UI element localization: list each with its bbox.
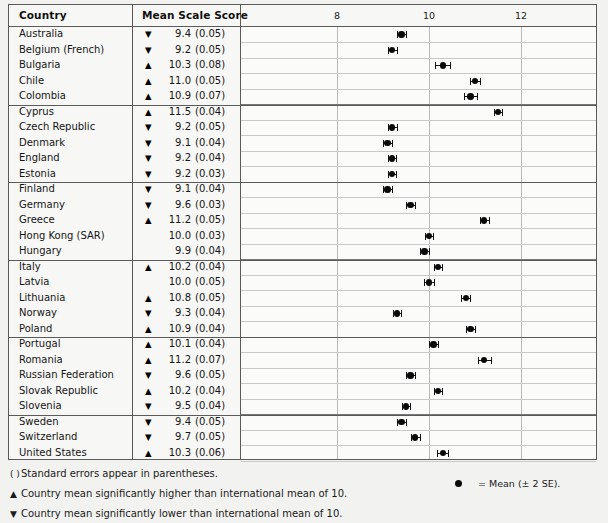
cell-country: Hong Kong (SAR) <box>19 230 105 241</box>
cell-mean-value: 11.0 <box>157 75 191 86</box>
table-row: Poland▲10.9(0.04) <box>9 322 596 338</box>
up-triangle-icon: ▲ <box>145 91 152 102</box>
table-row: Colombia▲10.9(0.07) <box>9 89 596 105</box>
cell-standard-error: (0.07) <box>195 90 225 101</box>
footnote-text: Standard errors appear in parentheses. <box>21 468 218 479</box>
cell-mean-value: 9.6 <box>157 369 191 380</box>
cell-standard-error: (0.04) <box>195 137 225 148</box>
table-row: Slovenia▼9.5(0.04) <box>9 399 596 415</box>
cell-mean-value: 10.8 <box>157 292 191 303</box>
down-triangle-icon: ▼ <box>145 153 152 164</box>
down-triangle-icon: ▼ <box>145 184 152 195</box>
footnote-item: ▼Country mean significantly lower than i… <box>10 508 440 520</box>
cell-mean-value: 10.2 <box>157 261 191 272</box>
cell-standard-error: (0.06) <box>195 447 225 458</box>
cell-standard-error: (0.05) <box>195 431 225 442</box>
cell-country: Slovak Republic <box>19 385 98 396</box>
table-row: Lithuania▲10.8(0.05) <box>9 291 596 307</box>
cell-standard-error: (0.04) <box>195 183 225 194</box>
up-triangle-icon: ▲ <box>145 262 152 273</box>
cell-country: Bulgaria <box>19 59 60 70</box>
cell-mean-value: 9.2 <box>157 168 191 179</box>
cell-standard-error: (0.07) <box>195 354 225 365</box>
legend-label: = Mean (± 2 SE). <box>478 478 560 489</box>
cell-mean-value: 11.5 <box>157 106 191 117</box>
cell-country: England <box>19 152 60 163</box>
cell-mean-value: 9.2 <box>157 121 191 132</box>
table-row: Bulgaria▲10.3(0.08) <box>9 58 596 74</box>
axis-tick-label: 8 <box>334 10 340 21</box>
cell-mean-value: 9.9 <box>157 245 191 256</box>
table-row: Cyprus▲11.5(0.04) <box>9 105 596 121</box>
down-triangle-icon: ▼ <box>145 138 152 149</box>
group-separator <box>9 337 596 338</box>
cell-mean-value: 10.0 <box>157 230 191 241</box>
cell-country: Finland <box>19 183 55 194</box>
cell-standard-error: (0.04) <box>195 400 225 411</box>
cell-mean-value: 10.2 <box>157 385 191 396</box>
table-row: Hungary9.9(0.04) <box>9 244 596 260</box>
cell-country: Chile <box>19 75 44 86</box>
table-row: Russian Federation▼9.6(0.05) <box>9 368 596 384</box>
table-row: Sweden▼9.4(0.05) <box>9 415 596 431</box>
axis-tick-label: 10 <box>423 10 435 21</box>
cell-mean-value: 9.1 <box>157 183 191 194</box>
group-separator <box>9 260 596 261</box>
cell-mean-value: 9.2 <box>157 152 191 163</box>
cell-country: Slovenia <box>19 400 62 411</box>
table-row: England▼9.2(0.04) <box>9 151 596 167</box>
cell-standard-error: (0.04) <box>195 261 225 272</box>
up-triangle-icon: ▲ <box>145 215 152 226</box>
cell-country: Greece <box>19 214 55 225</box>
table-row: Australia▼9.4(0.05) <box>9 27 596 43</box>
data-table-frame: Country Mean Scale Score 81012 Australia… <box>8 4 597 460</box>
cell-country: Norway <box>19 307 57 318</box>
cell-standard-error: (0.04) <box>195 385 225 396</box>
up-triangle-icon: ▲ <box>145 107 152 118</box>
down-triangle-icon: ▼ <box>145 122 152 133</box>
table-row: Greece▲11.2(0.05) <box>9 213 596 229</box>
cell-standard-error: (0.05) <box>195 292 225 303</box>
cell-country: Cyprus <box>19 106 54 117</box>
cell-standard-error: (0.04) <box>195 323 225 334</box>
table-row: Finland▼9.1(0.04) <box>9 182 596 198</box>
footnote-item: ( )Standard errors appear in parentheses… <box>10 468 440 480</box>
up-triangle-icon: ▲ <box>145 76 152 87</box>
cell-country: Colombia <box>19 90 66 101</box>
down-triangle-icon: ▼ <box>145 401 152 412</box>
down-triangle-icon: ▼ <box>145 308 152 319</box>
up-triangle-icon: ▲ <box>145 448 152 459</box>
cell-mean-value: 11.2 <box>157 214 191 225</box>
group-separator <box>9 182 596 183</box>
axis-tick-label: 12 <box>515 10 527 21</box>
cell-country: Sweden <box>19 416 59 427</box>
cell-mean-value: 10.9 <box>157 323 191 334</box>
cell-country: Czech Republic <box>19 121 95 132</box>
table-row: Hong Kong (SAR)10.0(0.03) <box>9 229 596 245</box>
cell-mean-value: 10.3 <box>157 59 191 70</box>
table-row: Slovak Republic▲10.2(0.04) <box>9 384 596 400</box>
cell-mean-value: 9.3 <box>157 307 191 318</box>
cell-mean-value: 9.5 <box>157 400 191 411</box>
up-triangle-icon: ▲ <box>145 60 152 71</box>
cell-mean-value: 10.9 <box>157 90 191 101</box>
up-triangle-icon: ▲ <box>145 293 152 304</box>
cell-mean-value: 9.1 <box>157 137 191 148</box>
table-row: Italy▲10.2(0.04) <box>9 260 596 276</box>
down-triangle-icon: ▼ <box>145 200 152 211</box>
cell-country: Poland <box>19 323 52 334</box>
cell-mean-value: 9.4 <box>157 416 191 427</box>
cell-standard-error: (0.04) <box>195 338 225 349</box>
cell-standard-error: (0.04) <box>195 152 225 163</box>
footnote-text: Country mean significantly lower than in… <box>21 508 342 519</box>
table-row: United States▲10.3(0.06) <box>9 446 596 462</box>
cell-standard-error: (0.03) <box>195 199 225 210</box>
down-triangle-icon: ▼ <box>145 45 152 56</box>
cell-standard-error: (0.04) <box>195 245 225 256</box>
cell-standard-error: (0.05) <box>195 276 225 287</box>
cell-mean-value: 11.2 <box>157 354 191 365</box>
cell-country: Russian Federation <box>19 369 114 380</box>
cell-country: Germany <box>19 199 65 210</box>
cell-country: Italy <box>19 261 41 272</box>
